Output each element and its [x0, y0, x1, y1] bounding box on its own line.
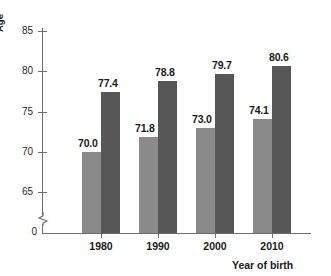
bar-group: 74.180.6: [253, 0, 291, 233]
bar-value-label: 73.0: [192, 114, 212, 125]
bar-value-label: 79.7: [212, 60, 232, 71]
y-axis-tick-label: 85: [11, 26, 33, 36]
x-axis-tick-mark: [215, 233, 216, 238]
bar: [139, 137, 158, 233]
y-axis-tick: 80: [0, 71, 47, 72]
y-axis-tick-label: 65: [11, 187, 33, 197]
x-axis-tick-label: 1990: [135, 241, 181, 252]
y-axis-tick: 85: [0, 31, 47, 32]
bar-chart: Age 6570758085 0 70.077.471.878.873.079.…: [0, 0, 331, 276]
bar: [196, 128, 215, 233]
y-axis-tick-label: 70: [11, 147, 33, 157]
y-axis-tick-label: 75: [11, 107, 33, 117]
bar: [253, 119, 272, 233]
y-axis-tick-label: 80: [11, 66, 33, 76]
bar: [82, 152, 101, 233]
bar-value-label: 78.8: [155, 67, 175, 78]
x-axis-tick-mark: [158, 233, 159, 238]
bar-value-label: 80.6: [269, 52, 289, 63]
bar-value-label: 77.4: [98, 78, 118, 89]
x-axis-line: [42, 233, 311, 234]
bar-group: 73.079.7: [196, 0, 234, 233]
bar-group: 70.077.4: [82, 0, 120, 233]
bar-group: 71.878.8: [139, 0, 177, 233]
x-axis-title: Year of birth: [232, 259, 293, 271]
x-axis-tick-mark: [272, 233, 273, 238]
bar: [215, 74, 234, 233]
bar-value-label: 74.1: [249, 105, 269, 116]
plot-area: 70.077.471.878.873.079.774.180.6: [43, 0, 311, 233]
y-axis-tick: 65: [0, 192, 47, 193]
bar: [101, 92, 120, 233]
x-axis-tick-mark: [101, 233, 102, 238]
bar-value-label: 71.8: [135, 123, 155, 134]
x-axis-tick-label: 2000: [192, 241, 238, 252]
bar: [158, 81, 177, 233]
y-axis-tick: 75: [0, 112, 47, 113]
bar-value-label: 70.0: [78, 138, 98, 149]
y-axis-title: Age: [0, 14, 5, 32]
y-axis-origin-label: 0: [15, 227, 37, 237]
bar: [272, 66, 291, 233]
x-axis-tick-label: 2010: [249, 241, 295, 252]
y-axis-tick: 70: [0, 152, 47, 153]
x-axis-tick-label: 1980: [78, 241, 124, 252]
